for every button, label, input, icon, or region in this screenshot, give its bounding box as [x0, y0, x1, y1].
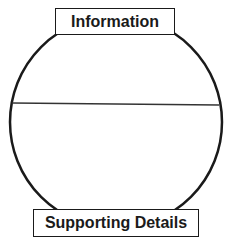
outer-circle: [10, 16, 222, 228]
supporting-details-label: Supporting Details: [33, 209, 199, 237]
circle-organizer: [0, 0, 230, 242]
information-label: Information: [55, 8, 175, 35]
divider-line: [12, 103, 219, 105]
